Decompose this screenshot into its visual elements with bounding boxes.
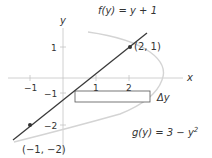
delta-y-label: Δy	[156, 92, 171, 103]
y-tick-label-neg1: −1	[44, 89, 57, 99]
y-axis-label: y	[59, 15, 67, 26]
x-tick-label-neg1: −1	[24, 83, 37, 93]
g-label: g(y) = 3 − y2	[132, 126, 199, 138]
y-tick-label-1: 1	[51, 43, 57, 53]
x-tick-label-2: 2	[126, 83, 132, 93]
area-between-curves-diagram: y x −1 1 2 1 −1 −2 (2, 1) (−1, −2) Δy f(…	[0, 0, 212, 158]
x-tick-label-1: 1	[93, 83, 99, 93]
y-tick-label-neg2: −2	[44, 121, 57, 131]
f-label: f(y) = y + 1	[98, 5, 157, 16]
point-lower	[28, 123, 32, 127]
point-lower-label: (−1, −2)	[22, 144, 66, 155]
x-axis-label: x	[186, 72, 193, 83]
g-label-exponent: 2	[194, 126, 199, 134]
g-label-base: g(y) = 3 − y	[132, 127, 195, 138]
point-upper-label: (2, 1)	[134, 41, 161, 52]
representative-rectangle	[75, 91, 150, 102]
point-upper	[128, 45, 132, 49]
